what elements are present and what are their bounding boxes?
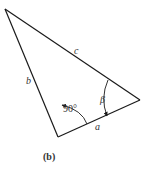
right-triangle-diagram: c b a 90° β (b) (0, 0, 150, 172)
side-c-label: c (74, 45, 79, 56)
side-a-label: a (95, 121, 100, 132)
side-c-line (5, 9, 140, 100)
beta-angle-label: β (99, 94, 105, 105)
panel-label: (b) (43, 151, 55, 163)
side-b-label: b (26, 75, 31, 86)
side-b-line (5, 9, 58, 137)
right-angle-label: 90° (63, 103, 77, 114)
